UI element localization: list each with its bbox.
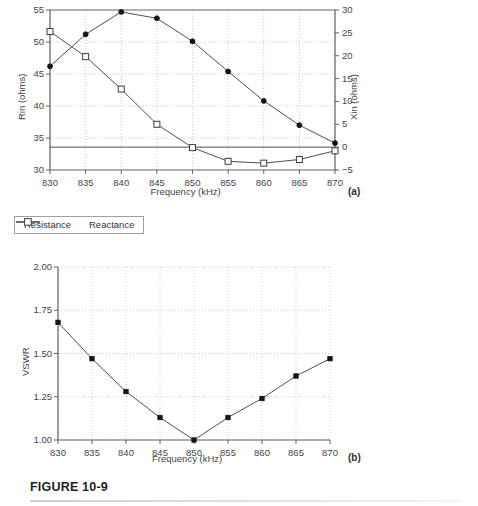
- chart-a-point: [47, 28, 53, 34]
- chart-a-y-tick-45: 45: [16, 69, 44, 79]
- chart-a-y2-tick-25: 25: [342, 28, 366, 38]
- chart-b-point: [56, 320, 60, 324]
- chart-a-point: [190, 39, 195, 44]
- chart-a-point: [296, 156, 302, 162]
- chart-b-point: [124, 389, 128, 393]
- chart-b-point: [260, 396, 264, 400]
- chart-a-y-tick-55: 55: [16, 5, 44, 15]
- chart-panel-b: VSWR Frequency (kHz) (b) 1.001.251.501.7…: [0, 255, 478, 470]
- figure-caption: FIGURE 10-9: [30, 480, 108, 494]
- legend-item-reactance: Reactance: [89, 220, 134, 230]
- chart-a-point: [226, 69, 231, 74]
- chart-b-point: [192, 438, 196, 442]
- chart-a-y-tick-40: 40: [16, 101, 44, 111]
- chart-b-point: [328, 356, 332, 360]
- figure-10-9: Rin (ohms) Xin (ohms) Frequency (kHz) (a…: [0, 0, 478, 506]
- chart-b-point: [158, 415, 162, 419]
- chart-b-point: [90, 356, 94, 360]
- chart-b-x-tick-850: 850: [180, 448, 208, 458]
- chart-b-x-tick-835: 835: [78, 448, 106, 458]
- chart-b-x-tick-845: 845: [146, 448, 174, 458]
- chart-b-y-tick-1.00: 1.00: [20, 435, 52, 445]
- chart-a-y2-tick-5: 5: [342, 119, 366, 129]
- chart-a-y-tick-50: 50: [16, 37, 44, 47]
- chart-a-point: [261, 160, 267, 166]
- chart-a-point: [261, 98, 266, 103]
- chart-legend: Resistance Reactance: [14, 216, 144, 234]
- chart-b-y-tick-2.00: 2.00: [20, 262, 52, 272]
- chart-a-y-tick-35: 35: [16, 133, 44, 143]
- chart-a-x-tick-870: 870: [321, 178, 349, 188]
- chart-a-x-tick-840: 840: [107, 178, 135, 188]
- chart-b-point: [226, 415, 230, 419]
- chart-a-x-tick-855: 855: [214, 178, 242, 188]
- chart-a-point: [333, 141, 338, 146]
- chart-a-x-tick-830: 830: [36, 178, 64, 188]
- chart-b-y-tick-1.25: 1.25: [20, 392, 52, 402]
- chart-a-y2-tick-0: 0: [342, 142, 366, 152]
- chart-a-point: [118, 86, 124, 92]
- chart-panel-a: Rin (ohms) Xin (ohms) Frequency (kHz) (a…: [0, 0, 478, 200]
- legend-label-reactance: Reactance: [89, 220, 134, 230]
- chart-a-y2-tick-15: 15: [342, 74, 366, 84]
- chart-a-point: [83, 54, 89, 60]
- chart-a-x-tick-865: 865: [285, 178, 313, 188]
- chart-a-point: [225, 158, 231, 164]
- chart-a-canvas: [0, 0, 478, 200]
- chart-b-x-tick-855: 855: [214, 448, 242, 458]
- chart-a-point: [154, 121, 160, 127]
- chart-a-point: [119, 9, 124, 14]
- chart-a-point: [48, 64, 53, 69]
- chart-a-x-tick-860: 860: [250, 178, 278, 188]
- chart-b-x-tick-860: 860: [248, 448, 276, 458]
- chart-a-x-tick-845: 845: [143, 178, 171, 188]
- open-square-icon: [15, 217, 41, 227]
- chart-a-x-tick-850: 850: [179, 178, 207, 188]
- chart-a-point: [332, 148, 338, 154]
- chart-a-y2-tick--5: −5: [342, 165, 366, 175]
- chart-a-y2-tick-10: 10: [342, 96, 366, 106]
- chart-b-y-tick-1.75: 1.75: [20, 305, 52, 315]
- chart-a-point: [190, 145, 196, 151]
- chart-a-y2-tick-20: 20: [342, 51, 366, 61]
- chart-b-canvas: [0, 255, 478, 470]
- chart-a-point: [154, 16, 159, 21]
- chart-b-point: [294, 374, 298, 378]
- chart-a-y2-tick-30: 30: [342, 5, 366, 15]
- caption-divider: [30, 500, 460, 502]
- chart-b-x-tick-840: 840: [112, 448, 140, 458]
- chart-a-x-tick-835: 835: [72, 178, 100, 188]
- chart-b-x-tick-865: 865: [282, 448, 310, 458]
- chart-a-y-tick-30: 30: [16, 165, 44, 175]
- chart-b-x-tick-870: 870: [316, 448, 344, 458]
- chart-b-x-tick-830: 830: [44, 448, 72, 458]
- chart-a-point: [83, 32, 88, 37]
- chart-b-y-tick-1.50: 1.50: [20, 349, 52, 359]
- chart-a-point: [297, 123, 302, 128]
